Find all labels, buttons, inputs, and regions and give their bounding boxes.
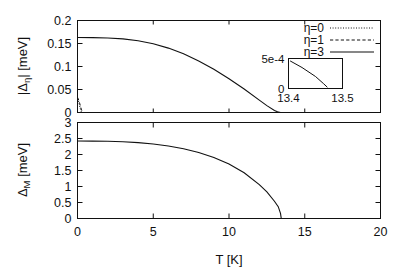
x-axis-title: T [K] [215,252,242,267]
top-y-label-post: | [meV] [15,37,30,78]
top-y-tick-label: 0.2 [54,14,71,28]
top-panel-y-axis-title: |Δη| [meV] [15,37,32,95]
inset-y-tick-label: 5e-4 [261,53,285,65]
figure-container: 00.050.10.150.2 |Δη| [meV] η=0η=1η=3 05e… [0,0,405,270]
inset-x-tick-label: 13.5 [331,92,353,104]
top-y-tick-label: 0.05 [47,83,71,97]
bottom-y-tick-label: 0 [65,212,72,226]
bottom-x-tick-label: 0 [74,225,81,239]
plot-canvas: 00.050.10.150.2 |Δη| [meV] η=0η=1η=3 05e… [0,0,405,270]
inset-x-tick-label: 13.4 [277,92,300,104]
bottom-y-tick-label: 2 [65,148,72,162]
top-y-label-text: |Δη| [meV] [15,37,32,95]
bottom-y-tick-label: 1.5 [54,164,71,178]
legend-label-η=3: η=3 [304,45,325,59]
top-y-tick-label: 0.1 [54,60,71,74]
bottom-panel-y-axis-title: ΔM [meV] [15,143,32,197]
top-y-label-pre: |Δ [15,83,30,95]
bottom-x-tick-label: 20 [374,225,388,239]
bottom-y-label-sub: M [21,180,32,188]
bottom-y-tick-label: 1 [65,180,72,194]
bottom-y-tick-label: 2.5 [54,132,71,146]
bottom-y-label-text: ΔM [meV] [15,143,32,197]
bottom-x-tick-label: 15 [298,225,312,239]
bottom-x-tick-label: 5 [150,225,157,239]
bottom-y-tick-label: 0.5 [54,196,71,210]
top-y-tick-label: 0.15 [47,37,71,51]
bottom-y-tick-label: 3 [65,116,72,130]
bottom-x-tick-label: 10 [222,225,236,239]
bottom-y-label-post: [meV] [15,143,30,181]
bottom-y-label-pre: Δ [15,188,30,197]
